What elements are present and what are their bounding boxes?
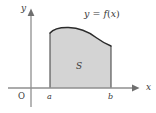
equation-part-equals: = [89,8,103,19]
figure-area-under-curve: y x O a b S y = f(x) [0,0,156,113]
equation-part-paren-close: ) [116,8,120,19]
diagram-canvas: y x O a b S y = f(x) [0,0,156,113]
tick-label-b: b [108,92,113,101]
tick-label-a: a [47,92,52,101]
x-axis-arrow-icon [132,85,140,92]
shaded-region-S [50,28,111,88]
x-axis-label: x [146,82,151,92]
region-label-S: S [76,61,82,71]
origin-label: O [18,91,25,101]
y-axis-arrow-icon [28,9,35,17]
curve-equation-label: y = f(x) [83,8,120,19]
y-axis-label: y [20,3,27,13]
